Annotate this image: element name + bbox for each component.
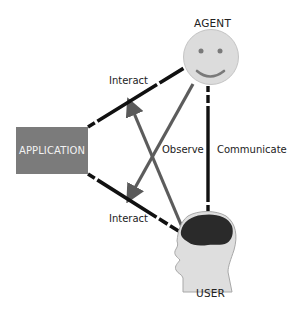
agent-node — [184, 30, 239, 85]
agent-label: AGENT — [194, 18, 231, 29]
application-node: APPLICATION — [16, 127, 88, 174]
communicate-label: Communicate — [217, 145, 287, 155]
interact-top-label: Interact — [109, 76, 148, 86]
observe-label: Observe — [162, 145, 204, 155]
right-eye — [218, 49, 223, 54]
left-eye — [199, 49, 204, 54]
interact-bottom-label: Interact — [109, 214, 148, 224]
application-label: APPLICATION — [19, 145, 85, 156]
user-node — [175, 212, 236, 293]
user-label: USER — [196, 288, 225, 299]
